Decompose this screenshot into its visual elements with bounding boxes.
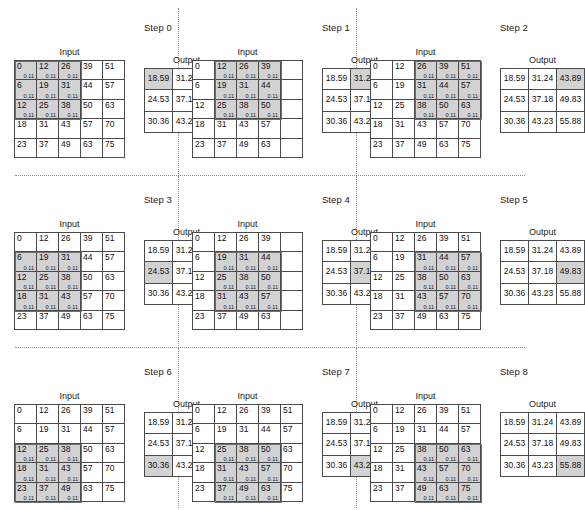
input-cell-value: 37 <box>217 140 226 149</box>
kernel-weight-label: 0.11 <box>224 284 234 290</box>
input-cell-value: 57 <box>283 425 292 434</box>
input-cell: 23 <box>15 139 37 158</box>
input-cell: 57 <box>259 119 281 138</box>
input-cell: 490.11 <box>415 483 437 502</box>
output-cell: 18.59 <box>145 69 173 90</box>
input-cell-value: 12 <box>17 273 26 282</box>
input-cell-value: 50 <box>261 445 270 454</box>
output-cell: 30.36 <box>501 112 529 133</box>
input-block: Input0122639516193144571225380.11500.116… <box>370 404 481 502</box>
input-cell-value: 75 <box>283 484 292 493</box>
input-cell-value: 25 <box>395 445 404 454</box>
input-cell-value: 75 <box>105 312 114 321</box>
input-cell-value: 57 <box>439 120 448 129</box>
output-cell-value: 24.53 <box>323 439 350 448</box>
input-cell: 31 <box>393 463 415 482</box>
output-cell: 18.59 <box>501 241 529 262</box>
kernel-weight-label: 0.11 <box>446 73 456 79</box>
input-cell: 380.11 <box>415 444 437 463</box>
input-cell: 12 <box>193 100 215 119</box>
step-panel-8: Step 8Input0122639516193144571225380.115… <box>356 352 534 510</box>
input-cell: 39 <box>259 233 281 252</box>
input-cell-value: 12 <box>395 62 404 71</box>
input-cell: 23 <box>371 139 393 158</box>
input-cell-value: 25 <box>39 273 48 282</box>
input-title: Input <box>14 47 125 57</box>
kernel-weight-label: 0.11 <box>46 495 56 501</box>
input-cell-value: 18 <box>195 120 204 129</box>
output-cell-value: 43.89 <box>557 246 584 255</box>
input-cell-value: 25 <box>39 445 48 454</box>
input-cell-value: 19 <box>39 425 48 434</box>
input-cell-value: 26 <box>61 62 70 71</box>
input-cell-value: 26 <box>239 62 248 71</box>
output-cell: 24.53 <box>323 262 351 283</box>
input-cell: 63 <box>103 444 125 463</box>
input-cell-value: 37 <box>395 484 404 493</box>
input-cell: 12 <box>393 61 415 80</box>
kernel-weight-label: 0.11 <box>224 93 234 99</box>
step-label: Step 4 <box>322 194 350 205</box>
input-cell: 0 <box>371 61 393 80</box>
input-cell: 500.11 <box>259 100 281 119</box>
input-cell-value: 63 <box>461 445 470 454</box>
output-cell-value: 30.36 <box>501 117 528 126</box>
output-cell-value: 30.36 <box>501 289 528 298</box>
input-cell: 49 <box>237 311 259 330</box>
output-cell-value: 37.18 <box>529 95 556 104</box>
input-cell: 37 <box>215 311 237 330</box>
input-cell: 630.11 <box>459 272 481 291</box>
input-cell: 60.11 <box>15 80 37 99</box>
input-cell-value: 43 <box>239 120 248 129</box>
input-cell: 57 <box>81 291 103 310</box>
input-cell: 430.11 <box>415 291 437 310</box>
kernel-weight-label: 0.11 <box>68 265 78 271</box>
input-cell-value: 25 <box>217 273 226 282</box>
input-cell-value: 26 <box>239 406 248 415</box>
output-cell: 24.53 <box>501 90 529 111</box>
input-cell-value: 43 <box>61 120 70 129</box>
input-cell-value: 63 <box>439 484 448 493</box>
kernel-weight-label: 0.11 <box>468 284 478 290</box>
input-cell-value: 63 <box>83 140 92 149</box>
output-cell: 37.18 <box>529 262 557 283</box>
input-block: Input012263951619314457120.11250.11380.1… <box>14 404 125 502</box>
input-block: Input012263951619310.11440.11570.1112253… <box>370 232 481 330</box>
input-cell-value: 43 <box>239 464 248 473</box>
kernel-weight-label: 0.11 <box>246 93 256 99</box>
input-cell-value: 12 <box>217 234 226 243</box>
kernel-weight-label: 0.11 <box>424 93 434 99</box>
input-cell: 75 <box>103 139 125 158</box>
output-block: Output18.5931.2443.8924.5337.1849.8330.3… <box>500 412 585 477</box>
step-panel-0: Step 0Input00.11120.11260.11395160.11190… <box>0 8 178 178</box>
input-cell: 49 <box>237 139 259 158</box>
input-cell: 70 <box>281 463 303 482</box>
input-cell: 37 <box>37 311 59 330</box>
kernel-weight-label: 0.11 <box>424 73 434 79</box>
kernel-weight-label: 0.11 <box>268 456 278 462</box>
input-cell-value: 39 <box>83 62 92 71</box>
input-cell: 750.11 <box>459 483 481 502</box>
input-cell-value: 57 <box>83 120 92 129</box>
input-cell: 250.11 <box>215 100 237 119</box>
input-grid: 01226395160.11190.11310.114457120.11250.… <box>14 232 125 330</box>
input-cell: 57 <box>81 119 103 138</box>
step-panel-1: Step 1Input0120.11260.11390.116190.11310… <box>178 8 356 178</box>
input-grid: 01226396190.11310.11440.1112250.11380.11… <box>192 232 303 330</box>
step-panel-4: Step 4Input01226396190.11310.11440.11122… <box>178 180 356 350</box>
input-cell: 250.11 <box>215 272 237 291</box>
input-cell-value: 37 <box>39 484 48 493</box>
kernel-weight-label: 0.11 <box>46 476 56 482</box>
input-cell-value: 70 <box>105 464 114 473</box>
input-cell-value: 18 <box>17 464 26 473</box>
input-cell: 75 <box>459 139 481 158</box>
input-cell: 51 <box>103 61 125 80</box>
input-cell-value: 57 <box>261 292 270 301</box>
input-cell: 380.11 <box>237 272 259 291</box>
output-cell: 30.36 <box>323 112 351 133</box>
input-cell: 39 <box>259 405 281 424</box>
input-cell-value: 39 <box>261 234 270 243</box>
input-cell-value: 57 <box>461 81 470 90</box>
input-cell-value: 63 <box>83 484 92 493</box>
